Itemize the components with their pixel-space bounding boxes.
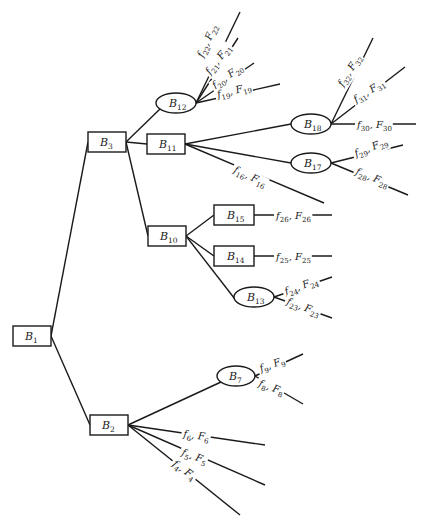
- leaf-branch-f30: f30, F30: [331, 119, 416, 133]
- leaf-branch-f25: f25, F25: [254, 251, 332, 265]
- leaf-branch-f9: f9, F9: [255, 354, 303, 377]
- edge-b3-b10: [126, 142, 148, 236]
- edge-b1-b2: [51, 336, 90, 425]
- leaf-branches: f22, F22f21, F21f20, F20f19, F19f32, F32…: [128, 12, 416, 515]
- node-b15: B15: [214, 205, 254, 225]
- leaf-branch-f26: f26, F26: [254, 210, 332, 224]
- leaf-branch-f28: f28, F28: [331, 163, 408, 195]
- node-b17: B17: [291, 153, 331, 173]
- leaf-branch-f16: f16, F16: [185, 144, 324, 203]
- node-b3: B3: [88, 132, 126, 152]
- node-b18: B18: [291, 114, 331, 134]
- node-b11: B11: [147, 134, 185, 154]
- edge-b11-b18: [185, 124, 291, 144]
- node-b7: B7: [217, 366, 255, 386]
- edge-b10-b15: [186, 215, 214, 236]
- decision-tree-diagram: f22, F22f21, F21f20, F20f19, F19f32, F32…: [0, 0, 422, 527]
- node-b1: B1: [13, 326, 51, 346]
- node-b2: B2: [90, 415, 128, 435]
- leaf-branch-f23: f23, F23: [274, 295, 332, 321]
- edge-b2-b7: [128, 382, 221, 425]
- node-b10: B10: [148, 226, 186, 246]
- leaf-branch-f6: f6, F6: [128, 425, 265, 446]
- node-b14: B14: [214, 246, 254, 266]
- node-b12: B12: [156, 93, 196, 113]
- edge-b1-b3: [51, 142, 88, 336]
- leaf-branch-f8: f8, F8: [254, 376, 303, 404]
- leaf-branch-f24: f24, F24: [274, 274, 332, 300]
- leaf-branch-f32: f32, F32: [331, 38, 373, 124]
- edge-b3-b11: [126, 142, 147, 144]
- node-b13: B13: [234, 287, 274, 307]
- leaf-branch-f29: f29, F29: [331, 135, 403, 163]
- edge-b11-b17: [185, 144, 291, 163]
